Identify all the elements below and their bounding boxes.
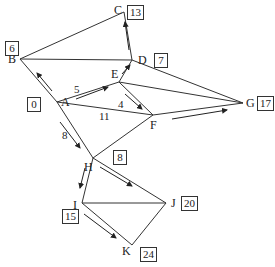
arrow-A-E [76, 87, 108, 99]
edge-H-J [93, 158, 166, 203]
node-a: A [61, 96, 70, 108]
node-h: H [84, 161, 93, 173]
distance-box-h: 8 [113, 150, 127, 165]
edge-F-G [153, 103, 243, 115]
node-j: J [171, 197, 176, 209]
arrow-H-J [100, 167, 132, 186]
arrow-E-D [122, 65, 130, 74]
distance-box-c: 13 [127, 5, 144, 20]
edge-A-B [20, 59, 57, 102]
distance-box-b: 6 [5, 41, 19, 56]
edge-weight: 11 [99, 111, 110, 122]
edge-weight: 4 [118, 99, 124, 110]
edge-I-K [82, 203, 132, 245]
edge-weight: 5 [74, 84, 80, 95]
edge-weight: 8 [62, 130, 68, 141]
distance-box-a: 0 [27, 97, 41, 112]
node-f: F [150, 119, 157, 131]
edge-B-C [20, 12, 124, 59]
node-g: G [246, 97, 255, 109]
edge-D-G [132, 60, 243, 103]
distance-box-k: 24 [140, 247, 157, 262]
network-diagram [0, 0, 275, 267]
node-k: K [122, 245, 131, 257]
distance-box-j: 20 [181, 196, 198, 211]
edge-B-D [20, 59, 132, 60]
distance-box-i: 15 [62, 209, 79, 224]
distance-box-d: 7 [154, 53, 168, 68]
edge-J-K [132, 203, 166, 245]
edges [20, 12, 243, 245]
node-e: E [111, 68, 118, 80]
distance-box-g: 17 [257, 96, 274, 111]
edge-D-E [119, 60, 132, 82]
node-d: D [138, 54, 147, 66]
node-c: C [114, 4, 122, 16]
